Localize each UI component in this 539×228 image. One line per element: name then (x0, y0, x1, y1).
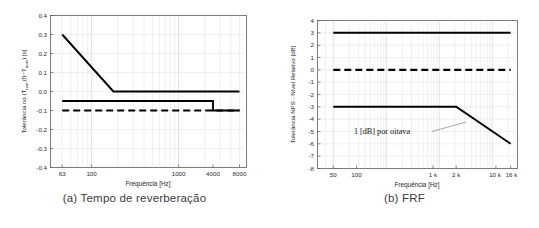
x-tick-label: 10 k (489, 171, 502, 178)
slope-annotation-label: 1 [dB] por oitava (354, 127, 411, 136)
y-tick-label: 0.4 (38, 12, 47, 19)
caption-b: (b) FRF (270, 192, 539, 204)
caption-a: (a) Tempo de reverberação (0, 192, 269, 204)
caption-a-text: Tempo de reverberação (81, 192, 207, 204)
x-tick-label: 8000 (233, 170, 247, 177)
y-tick-label: -8 (308, 165, 314, 172)
y-axis-label-part: (f)−T (20, 68, 27, 81)
y-tick-label: 4 (311, 17, 315, 24)
y-axis-label-part: Tolerância no (T (20, 90, 27, 134)
x-tick-label: 16 k (506, 171, 519, 178)
y-tick-label: 0.2 (38, 50, 47, 57)
y-axis-label-b: Tolerância NPS - Nível Relativo [dB] (289, 45, 296, 143)
x-tick-label: 100 (86, 170, 97, 177)
y-tick-label: 0.3 (38, 31, 47, 38)
y-axis-label-sub: nom (24, 59, 29, 68)
y-axis-label-part: ) [s] (20, 49, 27, 59)
y-tick-label: -6 (308, 140, 314, 147)
caption-b-id: (b) (384, 192, 399, 204)
y-tick-label: 1 (311, 54, 315, 61)
chart-frf: 4 3 2 1 0 -1 -2 -3 -4 -5 -6 -7 -8 (270, 0, 539, 190)
y-tick-label: 2 (311, 41, 315, 48)
y-tick-label: -0.2 (36, 126, 47, 133)
x-tick-label: 2 k (452, 171, 461, 178)
y-tick-label: -0.1 (36, 107, 47, 114)
panel-frf: 4 3 2 1 0 -1 -2 -3 -4 -5 -6 -7 -8 (270, 0, 539, 228)
y-tick-label: -4 (308, 115, 314, 122)
caption-b-text: FRF (402, 192, 425, 204)
y-axis-label-a: Tolerância no (Tnom(f)−Tnom) [s] (20, 49, 29, 133)
x-tick-label: 4000 (206, 170, 220, 177)
y-tick-label: -0.3 (36, 145, 47, 152)
x-axis-label-b: Frequência [Hz] (394, 181, 439, 189)
svg-text:Tolerância no (Tnom(f)−Tnom) [: Tolerância no (Tnom(f)−Tnom) [s] (20, 49, 29, 133)
y-tick-label: -2 (308, 91, 314, 98)
y-tick-label: 0.1 (38, 69, 47, 76)
panel-tempo-de-reverberacao: 0.4 0.3 0.2 0.1 0.0 -0.1 -0.2 -0.3 -0.4 … (0, 0, 269, 228)
y-axis-label-sub: nom (24, 81, 29, 90)
figure-container: 0.4 0.3 0.2 0.1 0.0 -0.1 -0.2 -0.3 -0.4 … (0, 0, 539, 228)
caption-a-id: (a) (63, 192, 78, 204)
x-tick-label: 100 (351, 171, 362, 178)
x-tick-label: 1 k (429, 171, 438, 178)
y-tick-label: 0.0 (38, 88, 47, 95)
x-tick-label: 1000 (172, 170, 186, 177)
y-tick-label: -7 (308, 152, 314, 159)
y-axis-label-b-text: Tolerância NPS - Nível Relativo [dB] (289, 45, 296, 143)
x-axis-label-a: Frequência [Hz] (125, 180, 170, 188)
chart-tempo-de-reverberacao: 0.4 0.3 0.2 0.1 0.0 -0.1 -0.2 -0.3 -0.4 … (0, 0, 269, 190)
x-tick-label: 63 (59, 170, 66, 177)
y-tick-label: -1 (308, 78, 314, 85)
y-tick-label: 3 (311, 29, 315, 36)
y-tick-label: -3 (308, 103, 314, 110)
x-tick-label: 50 (330, 171, 337, 178)
y-tick-label: -5 (308, 128, 314, 135)
y-tick-label: 0 (311, 66, 315, 73)
y-tick-label: -0.4 (36, 164, 47, 171)
